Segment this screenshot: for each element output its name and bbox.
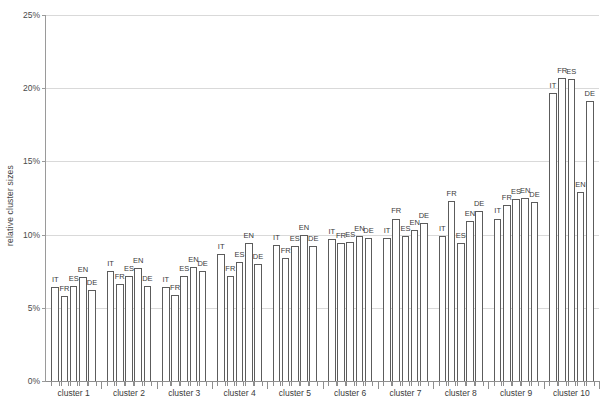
- x-tick-mark: [531, 381, 532, 386]
- bar-value-label: EN: [244, 232, 254, 240]
- y-tick-mark: [42, 381, 46, 382]
- x-tick-mark: [317, 381, 318, 386]
- category-label: cluster 6: [334, 388, 366, 398]
- x-tick-mark: [225, 381, 226, 386]
- bar-value-label: DE: [474, 200, 484, 208]
- x-tick-mark: [354, 381, 355, 386]
- bar-value-label: IT: [163, 276, 170, 284]
- x-group-separator: [433, 381, 434, 389]
- bar: [521, 198, 529, 381]
- bar: [328, 239, 336, 381]
- bar: [402, 236, 410, 381]
- x-axis-line: [45, 381, 599, 382]
- bar: [531, 202, 539, 381]
- x-tick-mark: [243, 381, 244, 386]
- x-tick-mark: [151, 381, 152, 386]
- x-tick-mark: [594, 381, 595, 386]
- x-group-separator: [323, 381, 324, 389]
- x-tick-mark: [59, 381, 60, 386]
- x-tick-mark: [328, 381, 329, 386]
- bar-value-label: FR: [170, 284, 180, 292]
- bar-value-label: DE: [142, 275, 152, 283]
- bar: [282, 258, 290, 381]
- bar-value-label: FR: [59, 285, 69, 293]
- x-tick-mark: [180, 381, 181, 386]
- bar: [356, 236, 364, 381]
- x-tick-mark: [291, 381, 292, 386]
- x-tick-mark: [566, 381, 567, 386]
- bar: [475, 211, 483, 381]
- x-tick-mark: [475, 381, 476, 386]
- x-tick-mark: [116, 381, 117, 386]
- x-tick-mark: [501, 381, 502, 386]
- x-group-separator: [599, 381, 600, 389]
- x-tick-mark: [289, 381, 290, 386]
- x-tick-mark: [96, 381, 97, 386]
- bar-value-label: IT: [494, 207, 501, 215]
- bar: [512, 199, 520, 381]
- bar: [457, 243, 465, 381]
- bar-value-label: DE: [253, 253, 263, 261]
- y-axis-line: [45, 15, 46, 381]
- bar-value-label: ES: [456, 232, 466, 240]
- x-tick-mark: [512, 381, 513, 386]
- x-tick-mark: [446, 381, 447, 386]
- bar: [254, 264, 262, 381]
- x-tick-mark: [356, 381, 357, 386]
- x-tick-mark: [88, 381, 89, 386]
- x-tick-mark: [337, 381, 338, 386]
- bar-chart: relative cluster sizes 0%5%10%15%20%25% …: [0, 0, 604, 410]
- x-tick-mark: [586, 381, 587, 386]
- x-tick-mark: [227, 381, 228, 386]
- bar-value-label: ES: [235, 251, 245, 259]
- x-group-separator: [267, 381, 268, 389]
- x-tick-mark: [125, 381, 126, 386]
- x-tick-mark: [521, 381, 522, 386]
- bar-value-label: IT: [273, 234, 280, 242]
- x-tick-mark: [575, 381, 576, 386]
- x-tick-mark: [188, 381, 189, 386]
- x-tick-mark: [372, 381, 373, 386]
- bar: [577, 192, 585, 381]
- x-tick-mark: [568, 381, 569, 386]
- bar: [448, 201, 456, 381]
- x-tick-mark: [309, 381, 310, 386]
- bar-value-label: EN: [465, 210, 475, 218]
- x-tick-mark: [254, 381, 255, 386]
- x-tick-mark: [282, 381, 283, 386]
- bar-value-label: IT: [52, 276, 59, 284]
- bar: [549, 93, 557, 381]
- x-tick-mark: [144, 381, 145, 386]
- y-tick-mark: [42, 161, 46, 162]
- x-tick-mark: [171, 381, 172, 386]
- bar-value-label: FR: [225, 265, 235, 273]
- bar: [365, 238, 373, 381]
- x-tick-mark: [114, 381, 115, 386]
- x-tick-mark: [402, 381, 403, 386]
- x-tick-mark: [234, 381, 235, 386]
- x-group-separator: [212, 381, 213, 389]
- bar-value-label: FR: [115, 273, 125, 281]
- y-tick-label: 10%: [6, 231, 40, 240]
- bar: [309, 246, 317, 381]
- category-label: cluster 7: [389, 388, 421, 398]
- bar-value-label: IT: [439, 225, 446, 233]
- bar: [273, 245, 281, 381]
- x-group-separator: [157, 381, 158, 389]
- x-tick-mark: [558, 381, 559, 386]
- bar-value-label: EN: [575, 181, 585, 189]
- category-label: cluster 3: [168, 388, 200, 398]
- bar-value-label: FR: [447, 190, 457, 198]
- bar: [411, 230, 419, 381]
- bar: [383, 238, 391, 381]
- x-tick-mark: [529, 381, 530, 386]
- bar-value-label: ES: [69, 275, 79, 283]
- bar-value-label: ES: [290, 235, 300, 243]
- x-tick-mark: [466, 381, 467, 386]
- bar-value-label: IT: [328, 228, 335, 236]
- plot-area: 0%5%10%15%20%25% ITFRESENDEITFRESENDEITF…: [46, 15, 599, 381]
- bar-value-label: ES: [566, 68, 576, 76]
- bar-value-label: DE: [585, 90, 595, 98]
- category-label: cluster 2: [113, 388, 145, 398]
- bar: [494, 219, 502, 382]
